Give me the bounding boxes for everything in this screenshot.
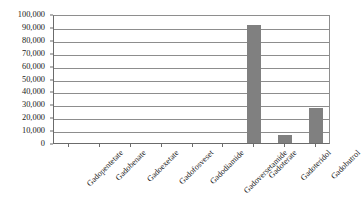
y-axis-tick-label: 80,000: [22, 37, 45, 45]
x-axis-tick-mark: [68, 144, 69, 147]
y-axis-tick-label: 70,000: [22, 49, 45, 57]
y-axis-tick-label: 0: [41, 140, 45, 148]
bar[interactable]: [278, 135, 292, 143]
y-axis-tick-label: 50,000: [22, 75, 45, 83]
y-axis: 010,00020,00030,00040,00050,00060,00070,…: [0, 0, 50, 217]
gridline: [54, 93, 329, 94]
x-axis-tick-mark: [130, 144, 131, 147]
gridline: [54, 55, 329, 56]
gridline: [54, 119, 329, 120]
gridline: [54, 68, 329, 69]
bar[interactable]: [247, 25, 261, 143]
x-axis-tick-label: Gadoexetate: [146, 149, 181, 184]
gridline: [54, 106, 329, 107]
x-axis-tick-label: Gadoteridol: [299, 149, 332, 182]
gridline: [54, 42, 329, 43]
y-axis-tick-label: 20,000: [22, 114, 45, 122]
x-axis-tick-mark: [284, 144, 285, 147]
x-axis-tick-mark: [99, 144, 100, 147]
gridline: [54, 81, 329, 82]
x-axis-tick-label: Gadoversetamide: [243, 149, 289, 195]
y-axis-tick-label: 10,000: [22, 127, 45, 135]
x-axis-tick-label: Gadobutrol: [330, 149, 362, 181]
gridline: [54, 29, 329, 30]
x-axis-tick-mark: [222, 144, 223, 147]
y-axis-tick-label: 90,000: [22, 24, 45, 32]
y-axis-tick-label: 60,000: [22, 62, 45, 70]
bar[interactable]: [309, 108, 323, 143]
x-axis-tick-mark: [253, 144, 254, 147]
y-axis-tick-label: 30,000: [22, 101, 45, 109]
x-axis-tick-mark: [192, 144, 193, 147]
plot-area: [53, 15, 330, 144]
y-axis-tick-label: 40,000: [22, 88, 45, 96]
x-axis-tick-mark: [315, 144, 316, 147]
x-axis-tick-mark: [161, 144, 162, 147]
y-axis-tick-label: 100,000: [18, 11, 45, 19]
gridline: [54, 132, 329, 133]
